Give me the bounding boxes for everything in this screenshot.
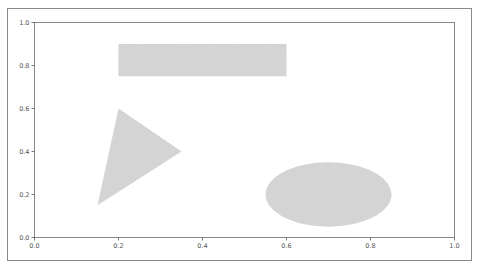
x-tick-label: 1.0 bbox=[449, 242, 459, 250]
x-tick-label: 0.0 bbox=[29, 242, 39, 250]
rectangle-patch bbox=[119, 44, 287, 76]
y-tick-label: 0.8 bbox=[19, 62, 29, 70]
chart-canvas: 0.00.20.40.60.81.00.00.20.40.60.81.0 bbox=[0, 0, 478, 266]
triangle-patch bbox=[98, 109, 182, 206]
x-tick-label: 0.4 bbox=[197, 242, 207, 250]
x-tick-label: 0.6 bbox=[281, 242, 291, 250]
y-tick-label: 0.2 bbox=[19, 191, 29, 199]
y-tick-label: 0.4 bbox=[19, 148, 29, 156]
y-tick-label: 1.0 bbox=[19, 19, 29, 27]
ellipse-patch bbox=[266, 162, 392, 227]
shapes-layer bbox=[98, 44, 392, 227]
y-tick-label: 0.0 bbox=[19, 234, 29, 242]
x-tick-label: 0.2 bbox=[113, 242, 123, 250]
y-tick-label: 0.6 bbox=[19, 105, 29, 113]
x-tick-label: 0.8 bbox=[365, 242, 375, 250]
